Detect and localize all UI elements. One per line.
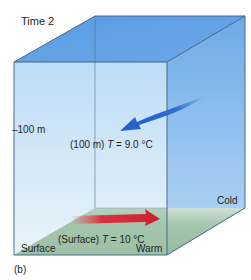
panel-label: (b) [14,264,26,275]
deep-temperature-label: (100 m) T = 9.0 °C [70,139,153,150]
depth-marker: –100 m [12,124,45,135]
cold-label: Cold [217,195,238,206]
figure-title: Time 2 [21,16,54,27]
surface-label: Surface [21,243,55,254]
warm-label: Warm [136,243,162,254]
depth-marker-label: 100 m [18,124,46,135]
surface-temperature-label: (Surface) T = 10 °C [58,234,145,245]
